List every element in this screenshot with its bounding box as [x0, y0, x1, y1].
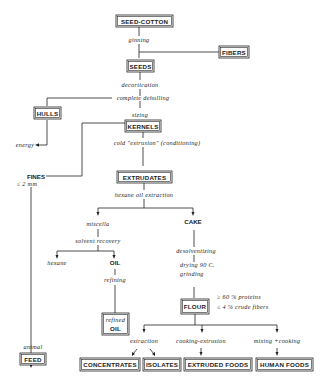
svg-text:HUMAN FOODS: HUMAN FOODS: [260, 361, 309, 368]
process-refining: refining: [104, 276, 126, 283]
stream-miscella: miscella: [86, 220, 109, 227]
node-fibers: FIBERS: [219, 46, 249, 58]
process-extraction: extraction: [130, 337, 158, 344]
svg-text:SEEDS: SEEDS: [130, 63, 152, 70]
node-refined-oil: refined OIL: [102, 313, 129, 335]
node-extruded-foods: EXTRUDED FOODS: [184, 358, 252, 371]
svg-text:FEED: FEED: [24, 356, 42, 363]
node-kernels: KERNELS: [125, 120, 161, 132]
svg-text:refined: refined: [106, 316, 126, 323]
fines-size-spec: ≤ 2 mm: [17, 180, 38, 187]
flour-protein-spec: ≥ 60 % proteins: [217, 293, 261, 300]
node-feed: FEED: [20, 353, 46, 365]
process-hexane-oil-extraction: hexane oil extraction: [115, 191, 174, 198]
process-cold-extrusion: cold "extrusion" (conditioning): [114, 139, 201, 147]
process-mixing-cooking: mixing +cooking: [254, 337, 301, 344]
node-concentrates: CONCENTRATES: [80, 358, 140, 371]
svg-text:CONCENTRATES: CONCENTRATES: [83, 361, 137, 368]
node-seeds: SEEDS: [127, 60, 154, 72]
node-oil: OIL: [110, 259, 121, 266]
node-human-foods: HUMAN FOODS: [256, 358, 313, 371]
svg-text:EXTRUDED FOODS: EXTRUDED FOODS: [188, 361, 249, 368]
process-grinding: grinding: [180, 270, 204, 277]
node-hulls: HULLS: [34, 107, 61, 119]
flowchart-diagram: SEED-COTTON FIBERS SEEDS HULLS KERNELS E…: [0, 0, 327, 386]
svg-text:HULLS: HULLS: [37, 110, 59, 117]
node-cake: CAKE: [184, 218, 202, 225]
process-drying: drying 90 C.: [180, 261, 215, 268]
process-complete-dehulling: complete dehulling: [117, 94, 170, 101]
output-energy: energy: [16, 141, 34, 148]
output-hexane: hexane: [47, 259, 66, 266]
process-cooking-extrusion: cooking-extrusion: [176, 337, 226, 344]
process-solvent-recovery: solvent recovery: [75, 237, 120, 244]
node-isolates: ISOLATES: [143, 358, 181, 371]
flour-fiber-spec: ≤ 4 % crude fibers: [217, 303, 269, 310]
node-extrudates: EXTRUDATES: [117, 171, 172, 183]
svg-text:SEED-COTTON: SEED-COTTON: [121, 18, 168, 25]
process-ginning: ginning: [128, 36, 149, 43]
node-seed-cotton: SEED-COTTON: [116, 15, 173, 27]
process-sizing: sizing: [132, 111, 148, 118]
svg-text:KERNELS: KERNELS: [128, 123, 159, 130]
svg-text:EXTRUDATES: EXTRUDATES: [123, 174, 166, 181]
svg-text:ISOLATES: ISOLATES: [146, 361, 178, 368]
node-fines: FINES: [27, 173, 45, 180]
svg-text:FLOUR: FLOUR: [184, 303, 207, 310]
svg-text:OIL: OIL: [110, 325, 121, 332]
label-animal: animal: [24, 343, 43, 350]
node-flour: FLOUR: [181, 299, 209, 314]
svg-text:FIBERS: FIBERS: [222, 49, 246, 56]
process-decortication: decortication: [122, 81, 159, 88]
process-desolventizing: desolventizing: [176, 247, 216, 254]
